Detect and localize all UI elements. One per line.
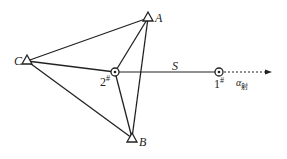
edge-a-2 [115, 18, 148, 72]
edge-a-b [132, 18, 148, 138]
label-b: B [139, 136, 146, 148]
edge-c-a [27, 18, 148, 61]
label-station-1: 1# [214, 77, 224, 90]
label-a: A [155, 12, 162, 24]
triangle-icon-a [143, 12, 153, 21]
arrow-head-icon [265, 70, 272, 75]
label-station-2: 2# [100, 75, 110, 88]
label-direction: α射 [236, 78, 248, 91]
label-c: C [14, 55, 22, 67]
triangle-icon-b [127, 133, 137, 142]
label-distance-s: S [172, 60, 178, 72]
